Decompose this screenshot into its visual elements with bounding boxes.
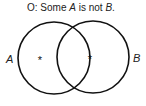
label-a: A [6, 53, 13, 65]
label-b: B [133, 52, 140, 64]
asterisk-mark-border: * [88, 53, 93, 65]
venn-diagram: * * [0, 0, 146, 106]
asterisk-mark-a: * [38, 54, 43, 66]
circle-a [18, 22, 90, 94]
circle-b [57, 21, 129, 93]
